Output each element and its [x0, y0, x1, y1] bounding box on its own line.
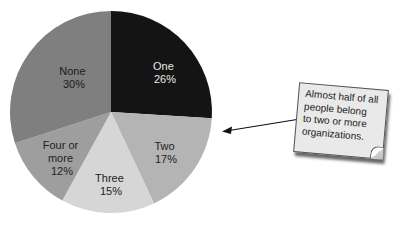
callout-note: Almost half of all people belong to two … [293, 82, 389, 160]
page-curl-icon [370, 146, 384, 160]
slice-label-two: Two 17% [154, 140, 177, 165]
slice-label-one: One 26% [153, 60, 177, 85]
slice-label-none: None 30% [59, 65, 88, 90]
callout-arrow [222, 119, 300, 134]
